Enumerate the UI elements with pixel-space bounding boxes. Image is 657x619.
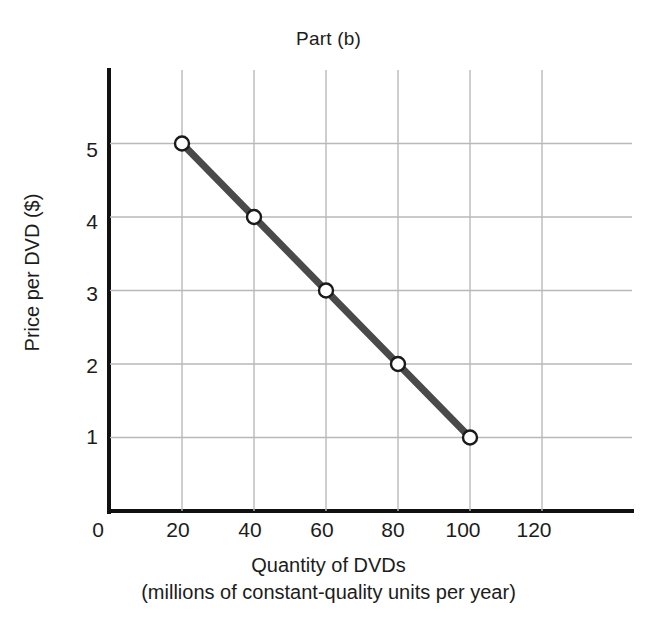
plot-area	[110, 70, 632, 511]
x-axis-title: Quantity of DVDs (millions of constant-q…	[0, 552, 657, 606]
data-point-marker	[247, 210, 261, 224]
x-tick-label-100: 100	[433, 518, 493, 542]
y-tick-label-5: 5	[58, 138, 98, 162]
x-tick-label-40: 40	[220, 518, 280, 542]
x-axis-title-line2: (millions of constant-quality units per …	[0, 579, 657, 606]
y-axis-title: Price per DVD ($)	[21, 133, 44, 413]
x-tick-label-120: 120	[504, 518, 564, 542]
x-tick-label-60: 60	[292, 518, 352, 542]
y-tick-label-1: 1	[58, 425, 98, 449]
y-tick-label-3: 3	[58, 282, 98, 306]
data-point-marker	[319, 284, 333, 298]
chart-title: Part (b)	[0, 28, 657, 50]
x-tick-label-0: 0	[83, 518, 113, 542]
x-tick-label-20: 20	[148, 518, 208, 542]
data-point-marker	[463, 431, 477, 445]
plot-canvas	[110, 70, 632, 511]
chart-figure: Part (b) 5 4 3 2 1 0 20 40 60 80 100 120…	[0, 0, 657, 619]
y-tick-label-4: 4	[58, 210, 98, 234]
data-point-marker	[175, 137, 189, 151]
x-tick-label-80: 80	[363, 518, 423, 542]
data-point-marker	[391, 357, 405, 371]
y-tick-label-2: 2	[58, 354, 98, 378]
x-axis-title-line1: Quantity of DVDs	[251, 554, 406, 576]
